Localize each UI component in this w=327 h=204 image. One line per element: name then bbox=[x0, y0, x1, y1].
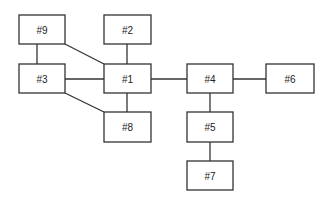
node-label: #5 bbox=[204, 122, 216, 133]
node-label: #9 bbox=[36, 25, 48, 36]
edge-3-8 bbox=[65, 93, 104, 112]
node-4: #4 bbox=[187, 64, 233, 93]
edges-layer bbox=[37, 44, 266, 161]
node-2: #2 bbox=[104, 15, 151, 44]
node-9: #9 bbox=[19, 15, 65, 44]
node-label: #6 bbox=[284, 74, 296, 85]
node-1: #1 bbox=[104, 64, 151, 93]
node-8: #8 bbox=[104, 112, 151, 142]
node-label: #1 bbox=[122, 74, 134, 85]
node-label: #8 bbox=[122, 122, 134, 133]
node-label: #7 bbox=[204, 171, 216, 182]
node-7: #7 bbox=[187, 161, 233, 190]
edge-9-1 bbox=[65, 44, 104, 64]
node-3: #3 bbox=[19, 64, 65, 93]
diagram-canvas: #9#2#3#1#4#6#8#5#7 bbox=[0, 0, 327, 204]
node-label: #4 bbox=[204, 74, 216, 85]
node-label: #3 bbox=[36, 74, 48, 85]
node-6: #6 bbox=[266, 64, 314, 93]
node-5: #5 bbox=[187, 112, 233, 142]
nodes-layer: #9#2#3#1#4#6#8#5#7 bbox=[19, 15, 314, 190]
node-label: #2 bbox=[122, 25, 134, 36]
